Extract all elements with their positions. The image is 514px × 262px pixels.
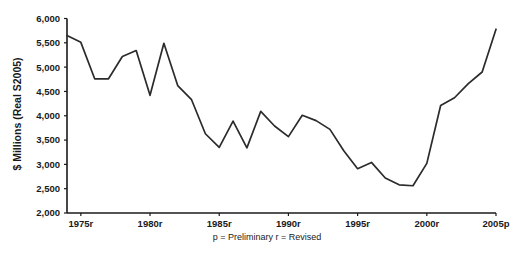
y-axis-tick-label: 4,000 xyxy=(36,110,60,121)
y-axis-tick-label: 6,000 xyxy=(36,13,60,24)
chart-footnote: p = Preliminary r = Revised xyxy=(213,232,322,242)
y-axis-tick-label: 2,500 xyxy=(36,183,60,194)
x-axis-tick-labels: 1975r1980r1985r1990r1995r2000r2005p xyxy=(68,218,509,229)
x-axis-tick-label: 1995r xyxy=(345,218,370,229)
chart-container: $ Millions (Real S2005) 2,0002,5003,0003… xyxy=(0,0,514,262)
data-series-line xyxy=(67,29,496,186)
y-axis-tick-label: 3,500 xyxy=(36,134,60,145)
y-axis-tick-label: 3,000 xyxy=(36,159,60,170)
y-axis-tick-label: 5,000 xyxy=(36,62,60,73)
y-axis-title-group: $ Millions (Real S2005) xyxy=(11,57,23,170)
x-axis-tick-label: 2000r xyxy=(414,218,439,229)
x-axis-tick-label: 2005p xyxy=(483,218,510,229)
line-chart: $ Millions (Real S2005) 2,0002,5003,0003… xyxy=(0,0,514,262)
y-axis-tick-label: 4,500 xyxy=(36,86,60,97)
x-axis-tick-label: 1985r xyxy=(207,218,232,229)
x-axis-tick-label: 1990r xyxy=(276,218,301,229)
y-axis-tick-labels: 2,0002,5003,0003,5004,0004,5005,0005,500… xyxy=(36,13,60,219)
x-axis-tick-label: 1980r xyxy=(138,218,163,229)
y-axis-tick-label: 2,000 xyxy=(36,207,60,218)
x-axis-tick-label: 1975r xyxy=(68,218,93,229)
y-axis-title: $ Millions (Real S2005) xyxy=(11,57,23,170)
y-axis-tick-label: 5,500 xyxy=(36,37,60,48)
